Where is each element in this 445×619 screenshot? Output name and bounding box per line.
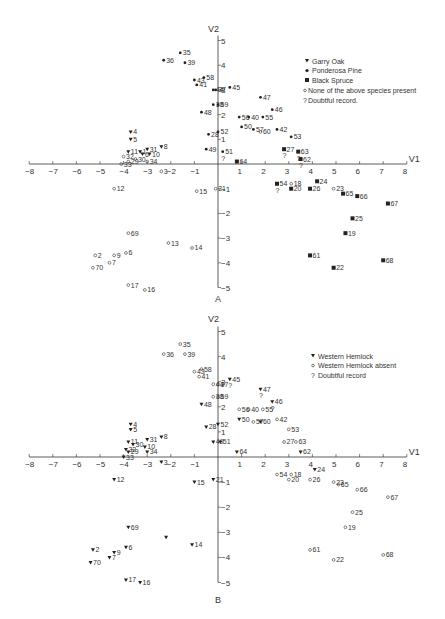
point-label: 3	[164, 168, 168, 175]
point-dot	[202, 76, 205, 79]
point-label: 51	[225, 148, 233, 155]
point-label: 6	[128, 544, 132, 551]
point-dot	[217, 103, 220, 106]
point-triangle	[129, 130, 133, 134]
question-mark-icon: ?	[303, 97, 307, 104]
point-circle	[276, 418, 279, 421]
point-label: 42	[280, 126, 288, 133]
x-tick-label: −6	[72, 460, 82, 469]
point-dot	[207, 133, 210, 136]
triangle-icon	[311, 354, 315, 358]
point-label: 14	[195, 244, 203, 251]
point-dot	[214, 89, 217, 92]
point-label: 70	[95, 264, 103, 271]
point-circle	[160, 170, 163, 173]
point-circle	[212, 395, 215, 398]
point-label: 54	[280, 471, 288, 478]
point-label: 15	[199, 188, 207, 195]
point-label: 52	[221, 421, 229, 428]
point-circle	[287, 428, 290, 431]
point-square	[381, 258, 385, 262]
point-dot	[252, 128, 255, 131]
y-tick-label: 1	[221, 428, 226, 437]
x-tick-label: −5	[96, 460, 106, 469]
point-label: 36	[166, 57, 174, 64]
point-label: 37	[218, 86, 226, 93]
point-square	[299, 157, 303, 161]
point-circle	[290, 182, 293, 185]
y-tick-label: 4	[221, 353, 226, 362]
point-circle	[309, 548, 312, 551]
point-label: 61	[313, 546, 321, 553]
point-circle	[94, 254, 97, 257]
point-circle	[184, 353, 187, 356]
panel-label: B	[215, 595, 221, 605]
y-tick-label: 1	[221, 135, 226, 144]
point-circle	[195, 190, 198, 193]
point-label: 27	[287, 438, 295, 445]
point-circle	[261, 408, 264, 411]
point-dot	[271, 108, 274, 111]
point-circle	[356, 488, 359, 491]
point-triangle	[129, 428, 133, 432]
x-tick-label: 3	[285, 460, 290, 469]
point-label: 50	[244, 123, 252, 130]
point-square	[343, 231, 347, 235]
point-triangle	[145, 450, 149, 454]
doubtful-mark: ?	[228, 382, 232, 389]
point-dot	[247, 116, 250, 119]
point-label: 35	[183, 341, 191, 348]
point-label: 45	[232, 376, 240, 383]
point-dot	[193, 79, 196, 82]
x-tick-label: 6	[356, 167, 361, 176]
point-label: 41	[199, 81, 207, 88]
x-tick-label: 4	[308, 460, 313, 469]
x-tick-label: −1	[190, 167, 200, 176]
point-label: 55	[265, 406, 273, 413]
point-triangle	[164, 536, 168, 540]
point-dot	[276, 128, 279, 131]
point-label: 10	[152, 151, 160, 158]
point-label: 66	[360, 486, 368, 493]
x-tick-label: 5	[332, 167, 337, 176]
point-label: 62	[303, 156, 311, 163]
point-label: 12	[117, 476, 125, 483]
x-tick-label: −7	[49, 167, 59, 176]
point-label: 34	[150, 158, 158, 165]
point-label: 69	[131, 524, 139, 531]
point-circle	[276, 473, 279, 476]
point-label: 66	[360, 193, 368, 200]
point-label: 48	[204, 401, 212, 408]
point-circle	[332, 481, 335, 484]
legend-a-ponderosa-pine: Ponderosa Pine	[312, 67, 362, 74]
point-label: 60	[263, 128, 271, 135]
x-tick-label: −2	[167, 460, 177, 469]
x-tick-label: 4	[308, 167, 313, 176]
point-label: 30	[136, 441, 144, 448]
point-dot	[205, 148, 208, 151]
legend-b-doubtful: Doubtful record	[318, 372, 366, 379]
x-tick-label: −3	[143, 167, 153, 176]
point-square	[235, 160, 239, 164]
point-label: 68	[386, 257, 394, 264]
point-label: 22	[336, 556, 344, 563]
point-triangle	[216, 423, 220, 427]
point-label: 25	[355, 509, 363, 516]
point-square	[332, 266, 336, 270]
circle-icon	[304, 89, 307, 92]
figure: −8−7−6−5−4−3−2−112345678−5−4−3−2−112345V…	[0, 0, 445, 619]
point-triangle	[270, 400, 274, 404]
point-square	[308, 187, 312, 191]
point-triangle	[138, 581, 142, 585]
point-label: 8	[164, 433, 168, 440]
point-label: 36	[166, 351, 174, 358]
point-label: 35	[183, 49, 191, 56]
x-tick-label: −1	[190, 460, 200, 469]
point-label: 68	[386, 551, 394, 558]
point-label: 26	[313, 476, 321, 483]
point-square	[341, 192, 345, 196]
point-label: 58	[204, 366, 212, 373]
point-label: 5	[133, 136, 137, 143]
point-circle	[387, 496, 390, 499]
legend-a-doubtful: Doubtful record.	[308, 97, 358, 104]
